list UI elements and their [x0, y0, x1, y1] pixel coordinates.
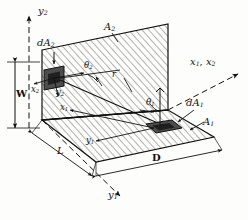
- angle-label-theta1: θ1: [146, 98, 154, 107]
- surface-label-A1: A1: [203, 117, 214, 127]
- dimension-label-D: D: [152, 153, 161, 163]
- axis-label-x1-x2: x1, x2: [190, 57, 216, 67]
- figure-canvas: y2 x1, x2 y1 A2 A1 dA2 dA1 θ2 θ1 r x2 y2…: [0, 0, 248, 220]
- axis-label-y2: y2: [38, 6, 48, 16]
- ray-label-r: r: [112, 70, 116, 79]
- element-label-dA1: dA1: [186, 98, 204, 108]
- angle-label-theta2: θ2: [84, 61, 92, 70]
- axis-label-y1: y1: [108, 190, 118, 200]
- local-axis-label-x2: x2: [31, 85, 39, 94]
- perpendicular-rectangles-diagram: [0, 0, 248, 220]
- local-axis-label-y2: y2: [56, 88, 64, 97]
- dimension-label-W: W: [16, 89, 27, 99]
- surface-label-A2: A2: [104, 22, 115, 32]
- local-axis-label-x1: x1: [60, 103, 68, 112]
- local-axis-label-y1: y1: [86, 136, 94, 145]
- element-label-dA2: dA2: [37, 38, 55, 48]
- dimension-label-L: L: [57, 146, 64, 156]
